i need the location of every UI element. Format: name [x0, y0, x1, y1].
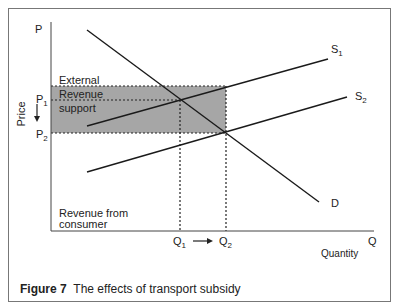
p1-sub: 1: [43, 99, 47, 108]
caption-number: Figure 7: [20, 282, 67, 296]
p-axis-label: P: [35, 23, 42, 35]
figure-caption: Figure 7 The effects of transport subsid…: [20, 282, 241, 296]
external-label: External: [59, 74, 99, 86]
q1-main: Q: [173, 235, 182, 247]
quantity-axis-title: Quantity: [321, 248, 358, 260]
caption-text: The effects of transport subsidy: [73, 282, 240, 296]
q-axis-label: Q: [368, 235, 377, 247]
q1-sub: 1: [182, 241, 186, 250]
p2-sub: 2: [43, 134, 47, 143]
price-axis-title: Price: [15, 101, 27, 126]
s2-sub: 2: [362, 96, 366, 105]
price-down-arrow-icon: [34, 116, 40, 122]
d-label: D: [331, 197, 339, 209]
s1-label: S1: [331, 43, 343, 57]
q1-label: Q1: [173, 235, 186, 249]
q2-label: Q2: [219, 235, 232, 249]
p2-label: P2: [36, 128, 48, 142]
p1-label: P1: [36, 93, 48, 107]
q2-main: Q: [219, 235, 228, 247]
consumer-label: consumer: [59, 218, 107, 230]
revenue-label: Revenue: [59, 88, 103, 100]
s2-label: S2: [355, 90, 367, 104]
q2-sub: 2: [228, 241, 232, 250]
quantity-right-arrow-icon: [207, 238, 213, 244]
s1-sub: 1: [338, 49, 342, 58]
support-label: support: [59, 102, 96, 114]
